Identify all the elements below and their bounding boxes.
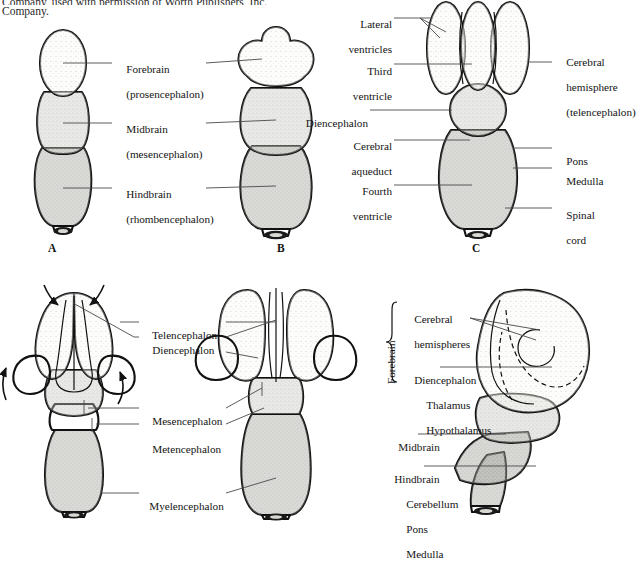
panel-d-artwork — [3, 285, 139, 519]
label-cerebral-hemisphere: Cerebral hemisphere (telencephalon) — [555, 43, 636, 131]
label-cerebral-hemispheres: Cerebral hemispheres — [403, 300, 470, 363]
panel-a-artwork — [35, 30, 112, 235]
label-medulla-c: Medulla — [555, 162, 603, 200]
label-spinal-cord: Spinal cord — [555, 196, 595, 259]
label-diencephalon-d: Diencephalon — [141, 331, 214, 369]
panel-letter-a: A — [48, 242, 56, 254]
label-forebrain-a: Forebrain (prosencephalon) — [115, 50, 204, 113]
label-fourth-ventricle: Fourth ventricle — [318, 172, 392, 235]
panel-letter-c: C — [472, 242, 480, 254]
panel-c-artwork — [370, 2, 552, 239]
label-myelencephalon: Myelencephalon — [138, 487, 224, 525]
panel-letter-b: B — [277, 242, 285, 254]
label-metencephalon: Metencephalon — [141, 430, 221, 468]
label-midbrain-a: Midbrain (mesencephalon) — [115, 110, 203, 173]
label-hindbrain-group: Hindbrain Cerebellum Pons Medulla — [383, 460, 458, 562]
label-forebrain-bracket: Forebrain — [385, 341, 397, 385]
label-hindbrain-a: Hindbrain (rhombencephalon) — [115, 175, 214, 238]
